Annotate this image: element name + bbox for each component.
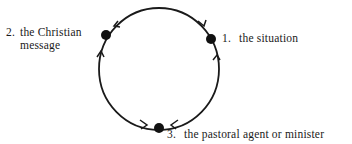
node-3-label: 3. the pastoral agent or minister <box>167 128 324 141</box>
cycle-diagram <box>0 0 352 144</box>
node-1-number: 1. <box>222 32 236 45</box>
node-1-dot <box>206 34 216 44</box>
node-2-text-line2: message <box>6 39 82 52</box>
node-2-label: 2.the Christian message <box>6 26 82 52</box>
node-3-number: 3. <box>167 128 181 141</box>
node-3-text: the pastoral agent or minister <box>184 128 324 140</box>
node-2-number: 2. <box>6 26 20 39</box>
node-2-dot <box>101 30 111 40</box>
node-1-text: the situation <box>239 32 298 44</box>
node-3-dot <box>154 123 164 133</box>
arrow-right-up-icon <box>213 55 220 60</box>
node-1-label: 1. the situation <box>222 32 298 45</box>
node-2-text-line1: the Christian <box>20 26 82 38</box>
